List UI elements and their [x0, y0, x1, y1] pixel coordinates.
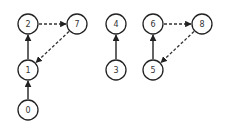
- node-label: 6: [150, 20, 155, 29]
- edge-8-to-5: [161, 32, 194, 63]
- node-label: 0: [25, 106, 30, 115]
- node-0: 0: [18, 100, 38, 120]
- node-label: 7: [74, 20, 79, 29]
- node-label: 2: [25, 20, 30, 29]
- node-label: 5: [150, 66, 155, 75]
- node-label: 3: [113, 66, 118, 75]
- node-8: 8: [192, 14, 212, 34]
- nodes-layer: 012734568: [18, 14, 212, 120]
- graph-canvas: 012734568: [0, 0, 227, 131]
- node-1: 1: [18, 60, 38, 80]
- node-3: 3: [106, 60, 126, 80]
- node-2: 2: [18, 14, 38, 34]
- node-label: 1: [25, 66, 30, 75]
- node-4: 4: [106, 14, 126, 34]
- edge-7-to-1: [36, 32, 69, 63]
- node-7: 7: [67, 14, 87, 34]
- node-label: 4: [113, 20, 118, 29]
- node-5: 5: [143, 60, 163, 80]
- node-label: 8: [199, 20, 204, 29]
- node-6: 6: [143, 14, 163, 34]
